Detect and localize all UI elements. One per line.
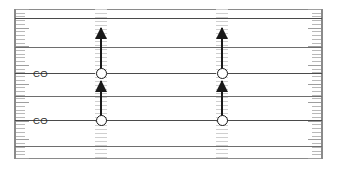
axis-tick (312, 136, 321, 137)
energy-level-line (15, 96, 322, 97)
column-guide-dash (216, 149, 228, 150)
axis-tick (16, 158, 29, 159)
axis-tick (16, 84, 29, 85)
axis-tick (16, 57, 25, 58)
axis-tick (312, 113, 321, 114)
transition-arrow-head (95, 27, 107, 39)
axis-tick-rail-left (16, 9, 29, 159)
axis-tick (16, 128, 25, 129)
axis-tick (312, 132, 321, 133)
axis-tick (308, 65, 321, 66)
column-guide-dash (95, 145, 107, 146)
axis-tick (312, 24, 321, 25)
energy-level-line (15, 120, 322, 121)
axis-tick (16, 65, 29, 66)
axis-tick (312, 87, 321, 88)
axis-tick (16, 69, 25, 70)
axis-tick (16, 139, 29, 140)
column-guide-dash (95, 25, 107, 26)
axis-tick (308, 84, 321, 85)
axis-tick (312, 124, 321, 125)
plot-border-top (14, 9, 323, 10)
axis-tick (312, 20, 321, 21)
energy-level-line (15, 47, 322, 48)
column-guide-dash (95, 133, 107, 134)
transition-arrow-head (216, 27, 228, 39)
axis-tick (16, 132, 25, 133)
state-marker-circle (96, 115, 107, 126)
column-guide-dash (95, 153, 107, 154)
axis-tick (16, 91, 25, 92)
column-guide-dash (216, 133, 228, 134)
axis-tick (16, 20, 25, 21)
column-guide-dash (95, 149, 107, 150)
plot-border-bottom (14, 158, 323, 159)
axis-tick (16, 43, 25, 44)
axis-tick (312, 154, 321, 155)
axis-tick (312, 57, 321, 58)
axis-tick (16, 80, 25, 81)
transition-arrow-head (216, 80, 228, 92)
column-guide-dash (216, 25, 228, 26)
axis-tick (312, 143, 321, 144)
axis-tick (16, 113, 25, 114)
axis-tick (16, 28, 29, 29)
axis-tick (312, 151, 321, 152)
transition-arrow-head (95, 80, 107, 92)
axis-tick (312, 31, 321, 32)
axis-tick (16, 87, 25, 88)
species-label-co: CO (33, 68, 48, 79)
axis-tick (308, 139, 321, 140)
axis-tick (16, 102, 29, 103)
energy-level-line (15, 146, 322, 147)
column-guide-dash (95, 17, 107, 18)
column-guide-dash (216, 137, 228, 138)
axis-tick (16, 24, 25, 25)
axis-tick (16, 136, 25, 137)
axis-tick (312, 43, 321, 44)
column-guide-dash (216, 157, 228, 158)
axis-tick (16, 35, 25, 36)
energy-level-line (15, 18, 322, 19)
axis-tick (312, 39, 321, 40)
column-guide-dash (216, 153, 228, 154)
axis-tick (16, 9, 29, 10)
column-guide-dash (95, 13, 107, 14)
plot-border-right (321, 9, 323, 159)
column-guide-dash (216, 145, 228, 146)
axis-tick (16, 50, 25, 51)
axis-tick-rail-right (308, 9, 321, 159)
axis-tick (312, 91, 321, 92)
axis-tick (16, 76, 25, 77)
column-guide-dash (95, 137, 107, 138)
state-marker-circle (96, 68, 107, 79)
axis-tick (16, 110, 25, 111)
axis-tick (312, 128, 321, 129)
column-guide-dash (216, 141, 228, 142)
axis-tick (312, 110, 321, 111)
axis-tick (308, 102, 321, 103)
axis-tick (16, 143, 25, 144)
column-guide-dash (95, 21, 107, 22)
column-guide-dash (95, 9, 107, 10)
axis-tick (308, 158, 321, 159)
axis-tick (308, 9, 321, 10)
state-marker-circle (217, 68, 228, 79)
axis-tick (312, 80, 321, 81)
axis-tick (312, 61, 321, 62)
column-guide-dash (216, 21, 228, 22)
state-marker-circle (217, 115, 228, 126)
axis-tick (16, 151, 25, 152)
axis-tick (16, 124, 25, 125)
axis-tick (312, 35, 321, 36)
axis-tick (312, 54, 321, 55)
energy-level-line (15, 73, 322, 74)
species-label-co: CO (33, 115, 48, 126)
axis-tick (312, 13, 321, 14)
axis-tick (312, 106, 321, 107)
axis-tick (16, 98, 25, 99)
column-guide-dash (216, 129, 228, 130)
axis-tick (16, 39, 25, 40)
axis-tick (312, 50, 321, 51)
axis-tick (312, 117, 321, 118)
